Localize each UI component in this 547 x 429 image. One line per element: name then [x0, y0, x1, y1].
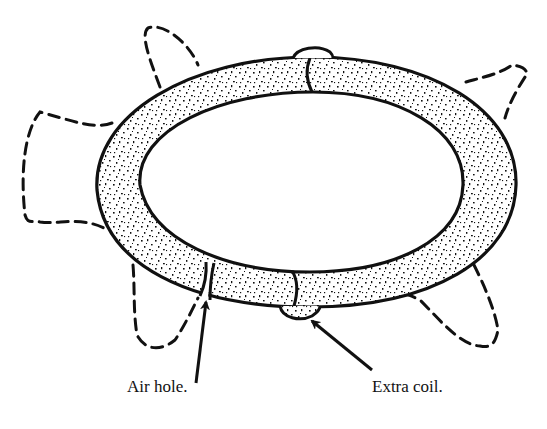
- label-air-hole: Air hole.: [127, 377, 187, 397]
- arrow-air-hole: [196, 302, 206, 383]
- extra-coil-patch: [280, 306, 320, 319]
- top-extra-coil: [293, 48, 333, 58]
- ring-body: [97, 57, 516, 307]
- label-extra-coil: Extra coil.: [372, 377, 443, 397]
- arrow-extra-coil: [312, 321, 372, 370]
- diagram-canvas: [0, 0, 547, 429]
